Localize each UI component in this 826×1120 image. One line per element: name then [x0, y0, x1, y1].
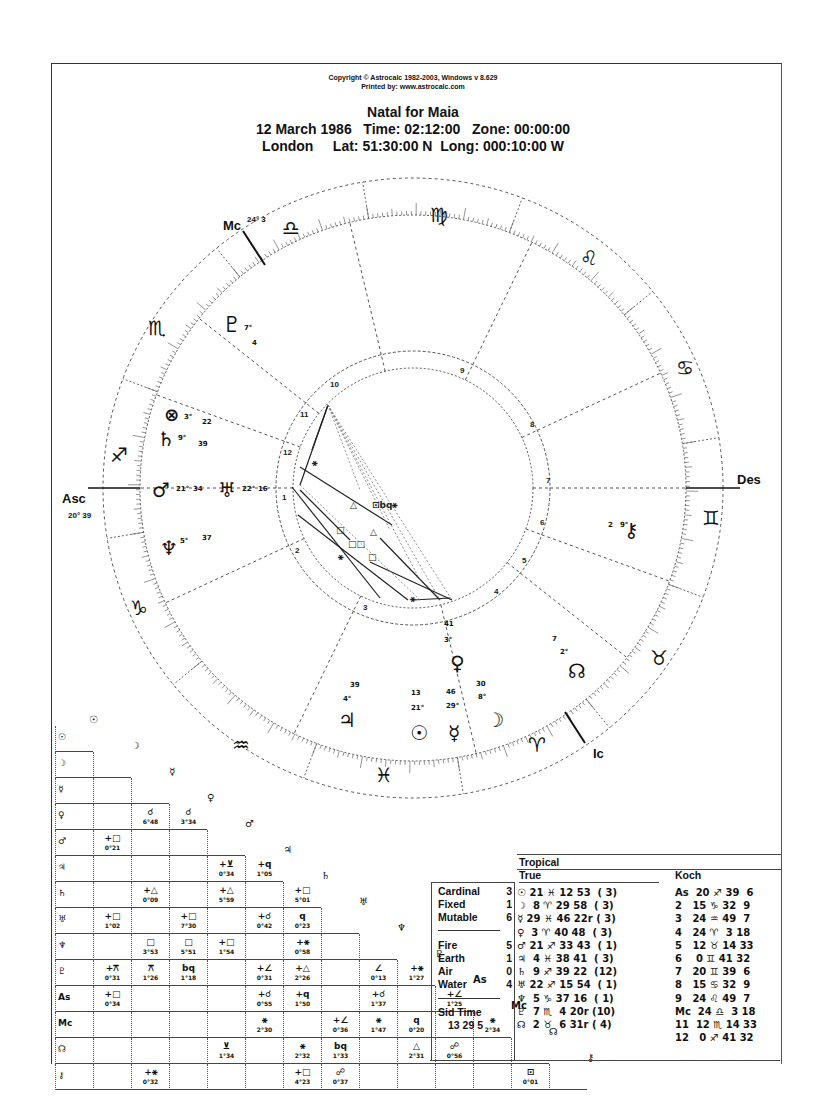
aspect-symbol: q — [413, 1015, 419, 1025]
aspect-grid-cell — [207, 830, 245, 856]
mars-icon: ♂ — [152, 478, 170, 502]
aspect-grid-cell — [321, 908, 359, 934]
aspect-grid-cell — [131, 830, 169, 856]
aries-icon: ♈ — [528, 733, 546, 757]
house-cusp-row: 3 24 ♒ 49 7 — [675, 912, 750, 925]
north-node-icon: ☊ — [568, 659, 586, 683]
aspect-symbol: △ — [413, 1041, 420, 1051]
aspect-grid-row-label: Mc — [55, 1012, 93, 1038]
virgo-icon: ♍ — [430, 203, 448, 227]
aspect-grid-cell: +△2°26 — [283, 960, 321, 986]
aspect-symbol: ⊡ — [527, 1067, 535, 1077]
saturn-marker: ♄9°39 — [157, 427, 208, 451]
svg-text:13: 13 — [411, 689, 421, 697]
aspect-grid-cell — [169, 1012, 207, 1038]
aspect-grid-cell: +⚹1°27 — [397, 960, 435, 986]
moon-marker: ☽8°30 — [476, 680, 504, 732]
svg-text:9: 9 — [460, 366, 465, 375]
aspect-orb: 3°34 — [170, 817, 207, 827]
planet-position-row: ☿ 29 ♓ 46 22r ( 3) — [517, 912, 616, 925]
north-node-marker: ☊2°7 — [552, 635, 586, 683]
aspect-grid-cell: bq1°18 — [169, 960, 207, 986]
planet-position-row: ♄ 9 ♐ 39 22 (12) — [517, 965, 617, 978]
aspect-grid-cell: +∠0°36 — [321, 1012, 359, 1038]
ic-line — [565, 712, 585, 743]
libra-icon: ♎ — [282, 216, 300, 240]
aspect-symbol: +☌ — [258, 989, 272, 999]
aspect-grid-cell — [93, 856, 131, 882]
svg-text:6: 6 — [540, 518, 545, 527]
aspect-grid-cell — [207, 1012, 245, 1038]
aspect-grid-cell: +⚻0°31 — [93, 960, 131, 986]
divider — [438, 998, 500, 999]
aspect-grid-cell — [473, 1064, 511, 1090]
aspect-grid-cell: ☍0°37 — [321, 1064, 359, 1090]
svg-text:22°: 22° — [242, 485, 255, 493]
aspect-symbol: ☌ — [185, 807, 191, 817]
svg-text:1: 1 — [282, 493, 287, 502]
jupiter-icon: ♃ — [338, 708, 356, 732]
aspect-grid-cell — [169, 830, 207, 856]
aspect-grid-cell: +☌0°55 — [245, 986, 283, 1012]
aspect-symbol: ∠ — [374, 963, 382, 973]
aspect-symbol: +∠ — [257, 963, 273, 973]
svg-text:□: □ — [368, 552, 377, 562]
svg-text:39: 39 — [198, 440, 208, 448]
aspect-symbol: ☍ — [336, 1067, 345, 1077]
aspect-grid-column-header: ☿ — [169, 766, 175, 777]
sagittarius-icon: ♐ — [110, 443, 128, 467]
aspect-orb: 0°42 — [246, 921, 283, 931]
aspect-grid-row-label: ☽ — [55, 752, 93, 778]
element-water: Water4 — [438, 977, 512, 991]
aspect-grid-cell — [169, 1064, 207, 1090]
mode-mutable: Mutable6 — [438, 910, 512, 924]
svg-text:5°: 5° — [180, 537, 188, 545]
aspect-grid-cell: +□4°23 — [283, 1064, 321, 1090]
aspect-grid-cell: q0°20 — [397, 1012, 435, 1038]
aspect-grid-column-header: ♆ — [397, 922, 406, 933]
zodiac-signs: ♐ ♏ ♎ ♍ ♌ ♋ ♊ ♉ ♈ ♓ ♒ ♑ — [110, 203, 720, 787]
house-cusp-row: 12 0 ♐ 41 32 — [675, 1031, 754, 1044]
neptune-icon: ♆ — [160, 536, 178, 560]
jupiter-marker: ♃4°39 — [338, 681, 360, 732]
aspect-grid-cell: +△0°09 — [131, 882, 169, 908]
sun-icon: ☉ — [410, 721, 428, 745]
aspect-grid-cell — [169, 986, 207, 1012]
house-cusp-row: 9 24 ♌ 49 7 — [675, 992, 750, 1005]
aspect-grid-cell: +⚹0°32 — [131, 1064, 169, 1090]
aspect-symbol: ⚹ — [262, 1015, 267, 1025]
house-system: Koch — [675, 869, 701, 882]
aspect-grid-column-header: ☽ — [131, 740, 140, 751]
svg-text:⊡bq⚹: ⊡bq⚹ — [372, 500, 398, 510]
aspect-grid-cell — [93, 1064, 131, 1090]
sid-time-value: 13 29 5 — [448, 1018, 522, 1032]
aspect-grid-column-header: ☉ — [89, 714, 98, 725]
aspect-orb: 1°34 — [208, 1051, 245, 1061]
venus-marker: ♀3°41 — [444, 620, 465, 675]
aspect-orb: 0°55 — [246, 999, 283, 1009]
aspect-grid-cell — [93, 882, 131, 908]
svg-text:⚹: ⚹ — [338, 552, 344, 562]
aspect-grid-cell: +⚹0°58 — [283, 934, 321, 960]
svg-text:21°: 21° — [411, 704, 424, 712]
aspect-grid-cell: +□5°01 — [283, 882, 321, 908]
chiron-marker: ⚷9°2 — [608, 518, 639, 542]
aspect-grid-cell — [283, 1012, 321, 1038]
aspect-orb: 4°23 — [284, 1077, 321, 1087]
uranus-marker: ♅22°16 — [218, 478, 268, 502]
aspect-grid-cell — [321, 934, 359, 960]
aspect-grid-row-label: ☉ — [55, 726, 93, 752]
aspect-symbol: +□ — [218, 937, 234, 947]
aspect-grid-cell: +△5°59 — [207, 882, 245, 908]
aspect-symbol: +q — [258, 859, 272, 869]
house-cusp-row: 6 0 ♊ 41 32 — [675, 952, 750, 965]
aspect-symbol: bq — [334, 1041, 347, 1051]
aspect-grid-row-label: ♃ — [55, 856, 93, 882]
aspect-orb: 0°31 — [94, 973, 131, 983]
aspect-orb: 1°37 — [360, 999, 397, 1009]
house-cusp-row: 8 15 ♋ 32 9 — [675, 978, 750, 991]
aspect-orb: 5°01 — [284, 895, 321, 905]
aspect-orb: 0°01 — [512, 1077, 549, 1087]
aspect-grid-cell: □3°53 — [131, 934, 169, 960]
aspect-grid-cell: ⚻1°26 — [131, 960, 169, 986]
